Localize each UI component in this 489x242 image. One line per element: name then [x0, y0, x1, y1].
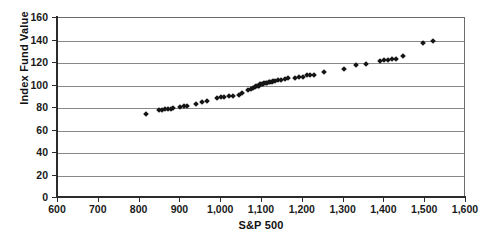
- gridline: [58, 108, 464, 109]
- x-tick: [261, 197, 262, 202]
- data-point: [231, 93, 237, 99]
- x-tick: [179, 197, 180, 202]
- gridline: [58, 63, 464, 64]
- data-point: [171, 105, 177, 111]
- y-tick-label: 40: [0, 146, 48, 158]
- data-point: [321, 69, 327, 75]
- y-tick: [52, 17, 57, 18]
- x-tick: [424, 197, 425, 202]
- data-point: [341, 66, 347, 72]
- data-point: [430, 38, 436, 44]
- y-tick: [52, 107, 57, 108]
- data-point: [204, 98, 210, 104]
- gridline: [58, 41, 464, 42]
- x-tick: [343, 197, 344, 202]
- x-tick: [57, 197, 58, 202]
- x-tick: [465, 197, 466, 202]
- x-tick: [302, 197, 303, 202]
- data-point: [311, 73, 317, 79]
- y-tick-label: 20: [0, 169, 48, 181]
- y-tick: [52, 85, 57, 86]
- y-tick: [52, 62, 57, 63]
- gridline: [58, 176, 464, 177]
- data-point: [285, 75, 291, 81]
- data-point: [143, 111, 149, 117]
- y-tick: [52, 40, 57, 41]
- x-tick: [220, 197, 221, 202]
- chart-container: 020406080100120140160 6007008009001,0001…: [0, 0, 489, 242]
- gridline: [58, 131, 464, 132]
- y-tick: [52, 152, 57, 153]
- data-point: [393, 56, 399, 62]
- y-tick: [52, 130, 57, 131]
- x-axis-title: S&P 500: [57, 219, 465, 231]
- gridline: [58, 153, 464, 154]
- plot-area: [57, 17, 465, 197]
- x-tick: [98, 197, 99, 202]
- x-tick-label: 1,600: [435, 203, 489, 215]
- y-axis-title: Index Fund Value: [18, 0, 30, 128]
- y-tick: [52, 175, 57, 176]
- data-point: [353, 62, 359, 68]
- x-tick: [383, 197, 384, 202]
- y-tick-label: 0: [0, 191, 48, 203]
- x-tick: [139, 197, 140, 202]
- data-point: [400, 53, 406, 59]
